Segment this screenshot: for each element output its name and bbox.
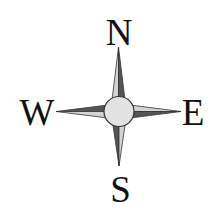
west-label: W	[20, 92, 55, 133]
west-point-icon	[56, 105, 108, 118]
compass-rose-graphic: N S W E	[0, 0, 214, 221]
south-point-icon	[113, 122, 126, 166]
east-label: E	[182, 92, 205, 133]
north-label: N	[106, 12, 133, 53]
south-label: S	[110, 169, 131, 210]
compass-rose: N S W E	[0, 0, 214, 221]
compass-hub-icon	[104, 97, 134, 127]
north-point-icon	[112, 47, 125, 100]
east-point-icon	[130, 105, 181, 118]
